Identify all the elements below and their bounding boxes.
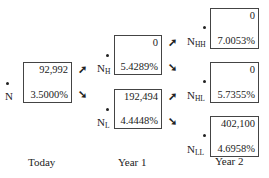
node-n-value: 92,992 (39, 64, 68, 75)
period-today: Today (28, 156, 55, 168)
node-nl-rate: 4.4448% (120, 115, 158, 126)
node-nll-dot (203, 134, 206, 137)
node-nhl-rate: 5.7355% (217, 89, 255, 100)
arrow-up-icon: ➚ (168, 91, 177, 102)
node-nl-box: 192,494 4.4448% (114, 89, 162, 129)
node-nh-dot (106, 54, 109, 57)
arrow-down-icon: ➘ (78, 89, 87, 100)
node-nh-label-text: N (97, 62, 105, 74)
node-nhh-dot (203, 26, 206, 29)
node-nhl-label-text: N (187, 89, 195, 101)
node-nll-sub: LL (195, 148, 204, 157)
node-nl-sub: L (105, 121, 110, 130)
node-nl-dot (106, 108, 109, 111)
node-nhh-box: 0 7.0053% (210, 8, 259, 49)
node-nhh-sub: HH (195, 40, 206, 49)
arrow-up-icon: ➚ (168, 37, 177, 48)
node-nh-box: 0 5.4289% (114, 35, 162, 75)
node-n-box: 92,992 3.5000% (23, 62, 72, 103)
node-n-dot (6, 82, 9, 85)
node-nh-sub: H (105, 67, 110, 76)
node-nll-label: NLL (187, 143, 204, 157)
node-nhh-value: 0 (250, 10, 255, 21)
node-nll-box: 402,100 4.6958% (210, 116, 259, 157)
node-nhl-value: 0 (250, 64, 255, 75)
node-nl-value: 192,494 (124, 91, 158, 102)
node-nhl-label: NHL (187, 89, 205, 103)
node-n-label-text: N (5, 90, 13, 102)
node-nhh-label-text: N (187, 35, 195, 47)
node-nhl-sub: HL (195, 94, 205, 103)
node-nh-rate: 5.4289% (120, 61, 158, 72)
node-nhh-rate: 7.0053% (217, 35, 255, 46)
node-nhl-box: 0 5.7355% (210, 62, 259, 103)
node-n-label: N (5, 90, 13, 102)
arrow-up-icon: ➚ (78, 64, 87, 75)
period-year-2: Year 2 (215, 155, 244, 167)
node-nhh-label: NHH (187, 35, 206, 49)
node-nll-label-text: N (187, 143, 195, 155)
node-nl-label-text: N (97, 116, 105, 128)
node-n-rate: 3.5000% (30, 89, 68, 100)
arrow-down-icon: ➘ (168, 116, 177, 127)
node-nll-value: 402,100 (221, 118, 255, 129)
arrow-down-icon: ➘ (168, 62, 177, 73)
node-nhl-dot (203, 80, 206, 83)
node-nh-label: NH (97, 62, 110, 76)
node-nll-rate: 4.6958% (217, 143, 255, 154)
node-nh-value: 0 (153, 37, 158, 48)
node-nl-label: NL (97, 116, 110, 130)
period-year-1: Year 1 (118, 156, 147, 168)
